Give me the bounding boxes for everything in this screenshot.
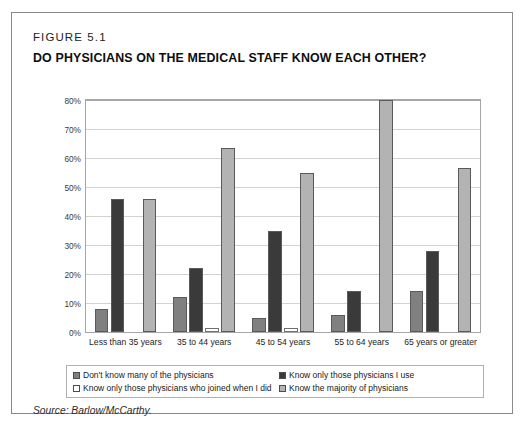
bar <box>331 315 345 332</box>
bar <box>347 291 361 332</box>
x-axis-tick-label: 65 years or greater <box>401 337 480 347</box>
x-axis-tick-label: Less than 35 years <box>86 337 165 347</box>
figure-frame: FIGURE 5.1 DO PHYSICIANS ON THE MEDICAL … <box>11 12 513 414</box>
bar <box>143 199 157 332</box>
bar <box>458 168 472 332</box>
legend-label: Know only those physicians who joined wh… <box>83 383 272 393</box>
bar <box>379 100 393 332</box>
bar <box>284 328 298 332</box>
bar <box>221 148 235 332</box>
y-axis-tick-label: 80% <box>47 96 81 106</box>
legend-entry: Don't know many of the physicians <box>73 370 214 380</box>
x-axis-tick-label: 55 to 64 years <box>322 337 401 347</box>
bar <box>173 297 187 332</box>
bar-group <box>86 100 165 332</box>
legend-swatch-icon <box>73 385 80 392</box>
y-axis-tick-label: 20% <box>47 270 81 280</box>
y-axis-tick-label: 0% <box>47 328 81 338</box>
bar-group <box>165 100 244 332</box>
chart-legend: Don't know many of the physiciansKnow on… <box>66 365 484 398</box>
bar-group <box>322 100 401 332</box>
source-note: Source: Barlow/McCarthy. <box>33 405 152 416</box>
legend-label: Don't know many of the physicians <box>83 370 214 380</box>
bars-layer <box>86 100 480 332</box>
bar-group <box>401 100 480 332</box>
y-axis-tick-label: 60% <box>47 154 81 164</box>
legend-entry: Know only those physicians who joined wh… <box>73 383 272 393</box>
bar <box>410 291 424 332</box>
x-axis-tick-label: 45 to 54 years <box>244 337 323 347</box>
legend-swatch-icon <box>279 385 286 392</box>
bar-chart: 80%70%60%50%40%30%20%10%0% Less than 35 … <box>48 88 496 353</box>
y-axis-tick-label: 30% <box>47 241 81 251</box>
legend-label: Know the majority of physicians <box>289 383 408 393</box>
legend-label: Know only those physicians I use <box>289 370 414 380</box>
bar-group <box>244 100 323 332</box>
gridline <box>86 332 480 333</box>
y-axis-tick-label: 40% <box>47 212 81 222</box>
x-axis-tick-label: 35 to 44 years <box>165 337 244 347</box>
legend-swatch-icon <box>279 372 286 379</box>
legend-swatch-icon <box>73 372 80 379</box>
bar <box>300 173 314 333</box>
bar <box>189 268 203 332</box>
y-axis-tick-label: 70% <box>47 125 81 135</box>
y-axis-tick-label: 10% <box>47 299 81 309</box>
bar <box>95 309 109 332</box>
figure-number: FIGURE 5.1 <box>33 31 107 43</box>
figure-title: DO PHYSICIANS ON THE MEDICAL STAFF KNOW … <box>33 51 426 65</box>
y-axis-tick-label: 50% <box>47 183 81 193</box>
legend-entry: Know the majority of physicians <box>279 383 408 393</box>
bar <box>111 199 125 332</box>
bar <box>426 251 440 332</box>
bar <box>268 231 282 333</box>
bar <box>205 328 219 332</box>
bar <box>252 318 266 333</box>
legend-entry: Know only those physicians I use <box>279 370 414 380</box>
